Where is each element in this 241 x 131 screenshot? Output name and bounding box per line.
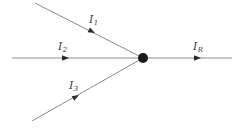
current-label-ir: IR: [193, 41, 203, 54]
branch-line-i3: [32, 58, 143, 121]
current-label-i2-sub: 2: [62, 46, 67, 54]
diagram-canvas: I1 I2 I3 IR: [0, 0, 241, 131]
junction-node: [138, 53, 148, 63]
current-label-i3-sub: 3: [73, 85, 78, 93]
current-label-ir-sub: R: [197, 46, 203, 54]
current-junction-svg: [0, 0, 241, 131]
current-label-i1: I1: [89, 14, 98, 27]
current-label-i1-sub: 1: [93, 19, 98, 27]
arrowhead-ir-icon: [194, 55, 201, 61]
current-label-i3: I3: [69, 80, 78, 93]
arrowhead-i2-icon: [62, 55, 69, 61]
current-label-i2: I2: [58, 41, 67, 54]
arrowhead-i1-icon: [88, 28, 97, 36]
